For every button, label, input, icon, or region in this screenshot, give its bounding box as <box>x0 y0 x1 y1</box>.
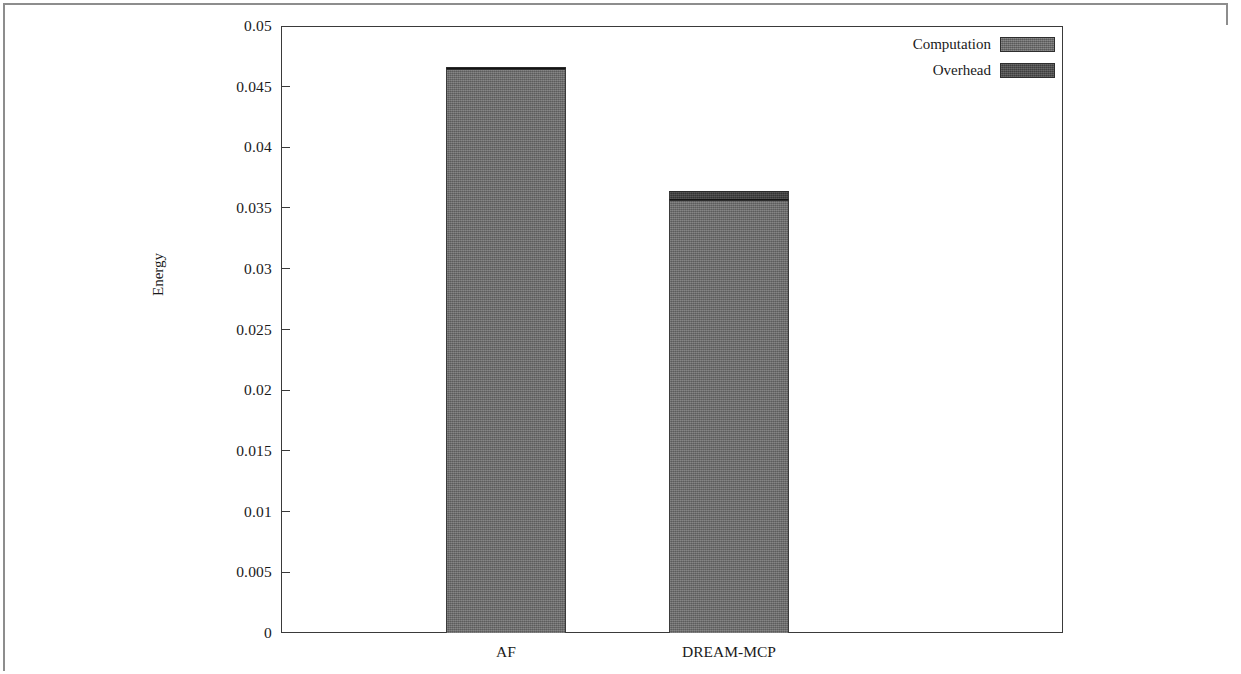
y-tick-5 <box>281 329 290 330</box>
chart-legend: Computation Overhead <box>890 33 1055 85</box>
bar-af <box>446 26 566 633</box>
y-tick-8 <box>281 147 290 148</box>
y-tick-label-0: 0 <box>152 625 272 641</box>
y-tick-label-9: 0.045 <box>152 79 272 95</box>
bar-segment-dream-mcp-computation <box>669 200 789 633</box>
legend-item-computation: Computation <box>890 33 1055 55</box>
x-tick-label-0: AF <box>396 643 616 661</box>
y-tick-label-10: 0.05 <box>152 18 272 34</box>
y-tick-label-1: 0.005 <box>152 564 272 580</box>
overhead-swatch-icon <box>1000 63 1055 78</box>
legend-label-computation: Computation <box>913 36 991 53</box>
y-tick-2 <box>281 511 290 512</box>
bar-segment-dream-mcp-overhead <box>669 191 789 200</box>
bar-dream-mcp <box>669 26 789 633</box>
figure-page: 00.0050.010.0150.020.0250.030.0350.040.0… <box>0 0 1241 674</box>
y-tick-label-7: 0.035 <box>152 200 272 216</box>
y-tick-label-5: 0.025 <box>152 322 272 338</box>
legend-label-overhead: Overhead <box>933 62 991 79</box>
x-tick-label-1: DREAM-MCP <box>619 643 839 661</box>
y-tick-7 <box>281 207 290 208</box>
computation-swatch-icon <box>1000 37 1055 52</box>
y-axis-title: Energy <box>150 253 167 296</box>
y-tick-label-8: 0.04 <box>152 139 272 155</box>
y-tick-label-2: 0.01 <box>152 504 272 520</box>
y-tick-6 <box>281 268 290 269</box>
y-tick-1 <box>281 572 290 573</box>
energy-bar-chart: 00.0050.010.0150.020.0250.030.0350.040.0… <box>0 0 1241 674</box>
y-tick-label-3: 0.015 <box>152 443 272 459</box>
bar-segment-af-computation <box>446 69 566 633</box>
y-tick-label-6: 0.03 <box>152 261 272 277</box>
y-tick-9 <box>281 86 290 87</box>
y-tick-label-4: 0.02 <box>152 382 272 398</box>
bar-segment-af-overhead <box>446 67 566 69</box>
y-tick-3 <box>281 450 290 451</box>
y-tick-4 <box>281 390 290 391</box>
legend-item-overhead: Overhead <box>890 59 1055 81</box>
